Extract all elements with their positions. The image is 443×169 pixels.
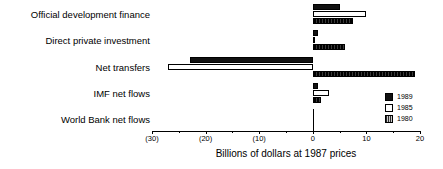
legend-item-1985: 1985 [385,103,441,113]
category-label-official-development-finance: Official development finance [0,10,150,20]
x-tick-label-10: 10 [346,135,386,143]
category-label-net-transfers: Net transfers [0,63,150,73]
x-tick-label-20: 20 [400,135,440,143]
zero-line [313,110,314,131]
bar-1985-direct-private-investment [313,37,315,43]
x-tick-label-neg10: (10) [239,135,279,143]
bar-1980-direct-private-investment [313,44,345,50]
plot-area [152,0,420,130]
category-label-world-bank-net-flows: World Bank net flows [0,115,150,125]
bar-1989-net-transfers [190,57,313,63]
bar-chart: Official development finance Direct priv… [0,0,443,169]
legend-label-1980: 1980 [397,114,413,124]
bar-1980-imf-net-flows [313,97,321,103]
legend-swatch-icon-1985 [385,104,393,112]
legend-swatch-icon-1989 [385,93,393,101]
bar-group-net-transfers [152,57,420,79]
bar-1980-official-development-finance [313,18,353,24]
bar-1989-official-development-finance [313,4,340,10]
x-tick-label-neg20: (20) [186,135,226,143]
bar-1989-direct-private-investment [313,30,318,36]
bar-group-imf-net-flows [152,83,420,105]
x-tick-minor [340,131,341,133]
x-tick-minor [393,131,394,133]
x-tick-minor [232,131,233,133]
x-tick-minor [179,131,180,133]
bar-group-official-development-finance [152,4,420,26]
legend: 1989 1985 1980 [385,92,441,125]
category-label-imf-net-flows: IMF net flows [0,89,150,99]
legend-label-1985: 1985 [397,103,413,113]
x-tick-label-0: 0 [293,135,333,143]
x-tick-label-neg30: (30) [132,135,172,143]
x-tick-minor [286,131,287,133]
bar-1985-official-development-finance [313,11,367,17]
bar-group-world-bank-net-flows [152,109,420,131]
legend-item-1980: 1980 [385,114,441,124]
bar-1985-imf-net-flows [313,90,329,96]
bar-1989-imf-net-flows [313,83,318,89]
x-axis-title: Billions of dollars at 1987 prices [152,148,420,160]
legend-item-1989: 1989 [385,92,441,102]
bar-group-direct-private-investment [152,30,420,52]
category-label-direct-private-investment: Direct private investment [0,36,150,46]
bar-1985-net-transfers [168,64,313,70]
category-axis-labels: Official development finance Direct priv… [0,0,150,130]
legend-swatch-icon-1980 [385,115,393,123]
legend-label-1989: 1989 [397,92,413,102]
bar-1980-net-transfers [313,71,415,77]
